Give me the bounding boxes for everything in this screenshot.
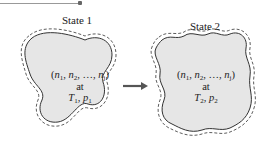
paren-close: ) (105, 69, 109, 80)
process-arrow (123, 82, 148, 90)
paren-close: ) (231, 69, 235, 80)
state2-title: State 2 (180, 20, 230, 32)
state1-at-label: at (40, 81, 120, 92)
ellipsis: , …, (77, 69, 98, 80)
pressure-subscript: 1 (88, 97, 92, 105)
temperature-subscript: 1 (74, 97, 78, 105)
state2-at-label: at (163, 81, 249, 92)
state1-conditions: T1, p1 (40, 92, 120, 107)
state2-conditions: T2, p2 (163, 92, 249, 107)
ellipsis: , …, (203, 69, 224, 80)
pressure-subscript: 2 (214, 97, 218, 105)
temperature-subscript: 2 (200, 97, 204, 105)
state1-title: State 1 (52, 14, 102, 26)
